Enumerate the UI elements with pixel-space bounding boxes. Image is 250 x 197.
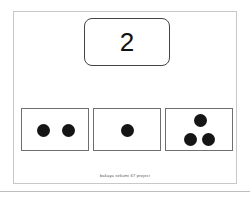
target-number: 2 <box>120 27 134 58</box>
dot-icon <box>184 133 197 146</box>
dot-icon <box>202 133 215 146</box>
dot-icon <box>121 124 134 137</box>
dot-icon <box>62 124 75 137</box>
option-two-dots[interactable] <box>21 108 89 151</box>
target-number-box: 2 <box>84 18 170 66</box>
footer-caption: bakaya sekumi 67 project <box>0 173 250 178</box>
option-three-dots[interactable] <box>165 108 233 151</box>
option-one-dot[interactable] <box>93 108 161 151</box>
divider <box>0 191 250 192</box>
dot-icon <box>37 124 50 137</box>
dot-icon <box>194 114 207 127</box>
